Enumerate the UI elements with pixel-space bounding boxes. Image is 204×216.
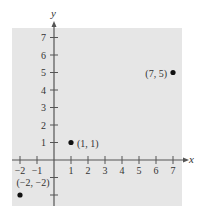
point-marker-icon xyxy=(17,192,22,197)
y-tick-label: 4 xyxy=(41,85,46,96)
point-label: (7, 5) xyxy=(145,68,167,80)
point-marker-icon xyxy=(68,140,73,145)
y-tick-label: 3 xyxy=(41,102,46,113)
x-tick-label: 6 xyxy=(154,165,159,176)
x-tick-label: 2 xyxy=(86,165,91,176)
x-tick-label: 4 xyxy=(120,165,125,176)
x-tick-label: −2 xyxy=(15,165,26,176)
y-axis-label: y xyxy=(50,7,56,19)
x-tick-label: 7 xyxy=(171,165,176,176)
y-axis-arrow-icon xyxy=(52,21,57,27)
y-tick-label: 1 xyxy=(41,137,46,148)
point-marker-icon xyxy=(170,70,175,75)
coordinate-plane: −2−112345671234567 (1, 1)(7, 5)(−2, −2) … xyxy=(0,0,204,216)
x-tick-label: 3 xyxy=(103,165,108,176)
x-axis-label: x xyxy=(188,153,194,165)
point-label: (1, 1) xyxy=(77,138,99,150)
y-tick-label: 6 xyxy=(41,50,46,61)
y-tick-label: 2 xyxy=(41,120,46,131)
point-label: (−2, −2) xyxy=(17,177,50,189)
x-tick-label: −1 xyxy=(32,165,43,176)
y-tick-label: 7 xyxy=(41,32,46,43)
x-tick-label: 5 xyxy=(137,165,142,176)
x-tick-label: 1 xyxy=(69,165,74,176)
y-tick-label: 5 xyxy=(41,67,46,78)
